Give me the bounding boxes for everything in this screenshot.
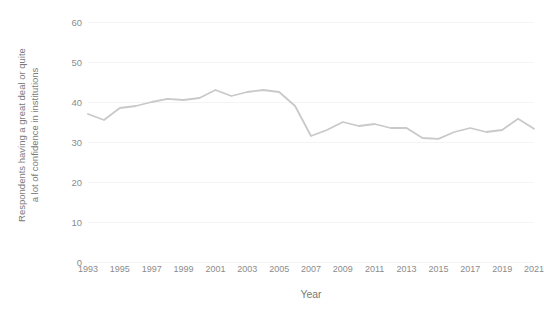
y-axis-tick-label: 20 xyxy=(52,177,82,188)
x-axis-tick-label: 2007 xyxy=(301,264,321,274)
x-axis-tick-label: 1995 xyxy=(110,264,130,274)
y-axis-tick-label: 10 xyxy=(52,217,82,228)
x-axis-tick-label: 1997 xyxy=(142,264,162,274)
series-line xyxy=(88,22,534,262)
x-axis-tick-label: 2021 xyxy=(524,264,544,274)
x-axis-tick-label: 2009 xyxy=(333,264,353,274)
y-axis-tick-label: 60 xyxy=(52,17,82,28)
gridline xyxy=(88,262,534,263)
x-axis-tick-label: 2011 xyxy=(365,264,384,274)
x-axis-tick-label: 2017 xyxy=(460,264,480,274)
x-axis-tick-label: 2003 xyxy=(237,264,257,274)
x-axis-tick-label: 2001 xyxy=(205,264,225,274)
y-axis-tick-label: 40 xyxy=(52,97,82,108)
x-axis-tick-label: 2005 xyxy=(269,264,289,274)
y-axis-tick-label: 30 xyxy=(52,137,82,148)
y-axis-title-line-2: a lot of confidence in institutions xyxy=(28,48,41,222)
y-axis-title: Respondents having a great deal or quite… xyxy=(0,0,56,270)
x-axis-tick-label: 2013 xyxy=(397,264,417,274)
x-axis-tick-label: 1993 xyxy=(78,264,98,274)
x-axis-tick-label: 2019 xyxy=(492,264,512,274)
plot-area xyxy=(88,22,534,262)
x-axis-tick-label: 2015 xyxy=(428,264,448,274)
y-axis-title-line-1: Respondents having a great deal or quite xyxy=(15,48,28,222)
y-axis-tick-label: 50 xyxy=(52,57,82,68)
y-axis-tick-labels: 0102030405060 xyxy=(52,0,82,323)
x-axis-tick-label: 1999 xyxy=(174,264,194,274)
x-axis-tick-labels: 1993199519971999200120032005200720092011… xyxy=(88,264,534,280)
x-axis-title: Year xyxy=(88,288,534,300)
